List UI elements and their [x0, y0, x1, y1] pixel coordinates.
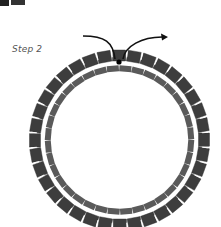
bead-inner	[120, 208, 132, 215]
bead-inner	[164, 184, 177, 197]
bead-inner	[63, 184, 76, 197]
bead-inner	[179, 103, 190, 116]
bead-outer	[82, 53, 98, 68]
bead-outer	[97, 50, 112, 63]
bead-outer	[199, 133, 210, 146]
bead-inner	[172, 92, 184, 105]
bead-outer	[33, 161, 48, 177]
bead-inner	[49, 103, 60, 116]
bead-ring	[30, 50, 210, 227]
bead-outer	[127, 217, 142, 227]
bead-inner	[107, 65, 119, 72]
bead-inner	[62, 83, 75, 96]
bead-inner	[143, 70, 156, 81]
bead-outer	[30, 118, 43, 133]
bead-inner	[94, 67, 107, 76]
bead-inner	[119, 65, 131, 72]
bead-inner	[187, 127, 194, 139]
bead-inner	[107, 208, 119, 215]
bead-outer	[113, 219, 126, 227]
thread-dot	[116, 59, 121, 64]
bead-inner	[132, 205, 145, 214]
bead-inner	[154, 192, 167, 204]
bead-inner	[154, 75, 167, 87]
arrow-head-icon	[161, 34, 168, 41]
bead-inner	[95, 205, 108, 214]
bead-outer	[30, 134, 41, 147]
bead-inner	[163, 83, 176, 96]
bead-inner	[46, 115, 55, 128]
bead-inner	[143, 199, 156, 210]
bead-inner	[46, 152, 55, 165]
bead-inner	[184, 115, 193, 128]
bead-inner	[179, 163, 190, 176]
bead-inner	[45, 128, 52, 140]
bead-outer	[30, 148, 43, 163]
bead-inner	[55, 175, 67, 188]
bead-inner	[83, 200, 96, 211]
bead-outer	[141, 212, 157, 227]
beaded-ring-diagram	[0, 0, 221, 227]
bead-inner	[72, 76, 85, 88]
bead-inner	[72, 193, 85, 205]
bead-outer	[196, 117, 209, 132]
bead-inner	[55, 93, 67, 106]
bead-inner	[82, 70, 95, 81]
bead-outer	[98, 217, 113, 227]
bead-inner	[184, 152, 193, 165]
bead-outer	[191, 103, 206, 119]
bead-outer	[196, 147, 209, 162]
bead-inner	[187, 140, 194, 152]
bead-inner	[45, 140, 52, 152]
bead-inner	[172, 174, 184, 187]
bead-outer	[126, 50, 141, 63]
bead-inner	[50, 164, 61, 177]
bead-inner	[131, 66, 144, 75]
